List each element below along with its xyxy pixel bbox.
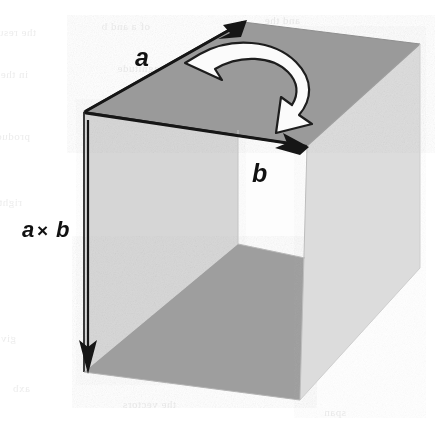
cross-product-label: a × b [22, 217, 69, 242]
ghost-text-line: the resulting [0, 26, 36, 38]
cross-product-operator: × [37, 220, 48, 241]
ghost-text-line: the vectors [123, 398, 176, 410]
ghost-text-line: in the direction [0, 68, 28, 80]
vector-b-label: b [252, 159, 267, 187]
ghost-text-line: given by [0, 332, 16, 344]
vector-a-label: a [135, 43, 149, 71]
cross-product-operand-left: a [22, 217, 34, 242]
cross-product-figure: the resultingof a and band thein the dir… [0, 0, 435, 430]
ghost-text-line: right [0, 196, 22, 208]
figure-canvas: the resultingof a and band thein the dir… [0, 0, 435, 430]
ghost-text-line: and the [264, 14, 300, 26]
ghost-text-line: axb [13, 382, 30, 394]
ghost-text-line: span [324, 406, 346, 418]
cross-product-operand-right: b [56, 217, 69, 242]
ghost-text-line: product of [0, 130, 30, 142]
ghost-text-line: of a and b [101, 20, 150, 32]
